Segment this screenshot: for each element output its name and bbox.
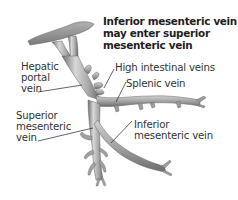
splenic-vein-shape <box>96 96 200 107</box>
label-high-intestinal-veins: High intestinal veins <box>115 62 215 73</box>
leader-inferior-mesenteric <box>111 121 132 143</box>
note-inferior-mesenteric: Inferior mesenteric vein may enter super… <box>103 15 237 51</box>
label-hepatic-portal-vein: Hepatic portal vein <box>21 61 59 94</box>
label-inferior-mesenteric-vein: Inferior mesenteric vein <box>134 119 213 141</box>
portal-vein-left-fork <box>52 41 72 58</box>
label-superior-mesenteric-vein: Superior mesenteric vein <box>16 110 71 143</box>
label-splenic-vein: Splenic vein <box>126 78 185 89</box>
leader-high-intestinal <box>104 69 114 88</box>
